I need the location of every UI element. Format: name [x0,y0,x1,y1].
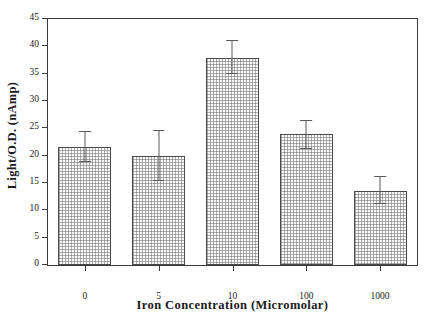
error-bar-cap-lower [227,73,239,74]
error-bar-cap-lower [300,148,312,149]
y-axis-title: Light/O.D. (nAmp) [0,0,26,270]
error-bar-cap-upper [153,130,165,131]
y-axis-tick-label: 35 [30,67,40,77]
error-bar-cap-lower [374,203,386,204]
y-axis-tick: 20 [42,155,48,156]
y-axis-tick-label: 15 [30,176,40,186]
error-bar-cap-lower [153,180,165,181]
error-bar-stem [84,132,85,163]
y-axis-tick: 0 [42,264,48,265]
error-bar-cap-lower [79,161,91,162]
error-bar-cap-upper [300,120,312,121]
y-axis-tick-label: 0 [34,258,39,268]
y-axis-tick: 15 [42,182,48,183]
y-axis-tick-label: 40 [30,39,40,49]
y-axis-tick-label: 25 [30,121,40,131]
y-axis-tick: 45 [42,18,48,19]
x-axis-tick [306,265,307,271]
error-bar [280,19,333,265]
error-bar [58,19,111,265]
error-bar-cap-upper [374,176,386,177]
error-bar [206,19,259,265]
error-bar-cap-upper [227,40,239,41]
y-axis-tick: 5 [42,237,48,238]
y-axis-tick: 35 [42,73,48,74]
error-bar-stem [306,121,307,149]
x-axis-title: Iron Concentration (Micromolar) [47,298,418,313]
error-bar-cap-upper [79,131,91,132]
y-axis-tick-label: 10 [30,203,40,213]
y-axis-tick: 30 [42,100,48,101]
x-axis-tick [85,265,86,271]
plot-inner: 051015202530354045 05101001000 [48,19,417,265]
error-bar-stem [158,131,159,181]
plot-area: 051015202530354045 05101001000 [47,18,418,266]
y-axis-title-text: Light/O.D. (nAmp) [6,81,21,189]
y-axis-tick-label: 30 [30,94,40,104]
y-axis-tick: 10 [42,209,48,210]
y-axis-tick: 25 [42,127,48,128]
x-axis-tick [380,265,381,271]
error-bar [132,19,185,265]
y-axis-tick-label: 5 [34,231,39,241]
y-axis-tick: 40 [42,45,48,46]
x-axis-tick [233,265,234,271]
error-bar [354,19,407,265]
x-axis-tick [159,265,160,271]
y-axis-tick-label: 20 [30,149,40,159]
error-bar-stem [232,41,233,74]
error-bar-stem [380,177,381,204]
chart-figure: Light/O.D. (nAmp) 051015202530354045 051… [0,0,435,322]
y-axis-tick-label: 45 [30,12,40,22]
